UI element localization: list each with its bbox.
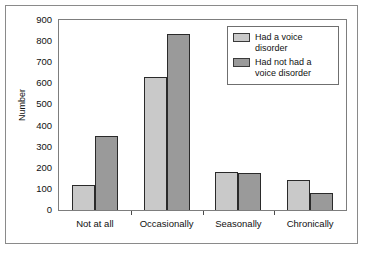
y-axis-tick-label: 500 <box>26 99 52 109</box>
x-axis-tick-mark <box>274 211 275 215</box>
x-axis-tick-mark <box>131 211 132 215</box>
y-axis-tick-label: 400 <box>26 121 52 131</box>
y-axis-tick-label: 200 <box>26 163 52 173</box>
y-axis-tick-label: 0 <box>26 205 52 215</box>
bar <box>215 172 238 210</box>
bar <box>238 173 261 210</box>
legend-item: Had a voice disorder <box>233 32 333 54</box>
bar <box>95 136 118 210</box>
bar <box>72 185 95 210</box>
legend-item: Had not had a voice disorder <box>233 57 333 79</box>
bar <box>144 77 167 210</box>
bar <box>310 193 333 210</box>
x-axis-tick-mark <box>203 211 204 215</box>
y-axis-tick-label: 800 <box>26 36 52 46</box>
y-axis-tick-label: 600 <box>26 78 52 88</box>
bar-chart-figure: Number 0100200300400500600700800900 Had … <box>0 0 365 263</box>
legend-swatch-had-voice-disorder <box>233 33 250 42</box>
legend-swatch-had-not-had-voice-disorder <box>233 58 250 67</box>
y-axis-tick-label: 700 <box>26 57 52 67</box>
legend-label: Had not had a voice disorder <box>255 57 333 79</box>
plot-area: Had a voice disorder Had not had a voice… <box>58 19 347 211</box>
y-axis-tick-label: 100 <box>26 184 52 194</box>
bar <box>287 180 310 210</box>
bar <box>167 34 190 210</box>
x-axis-category-label: Chronically <box>265 219 355 229</box>
legend: Had a voice disorder Had not had a voice… <box>227 26 339 85</box>
legend-label: Had a voice disorder <box>255 32 333 54</box>
y-axis-tick-label: 300 <box>26 142 52 152</box>
y-axis-tick-label: 900 <box>26 15 52 25</box>
